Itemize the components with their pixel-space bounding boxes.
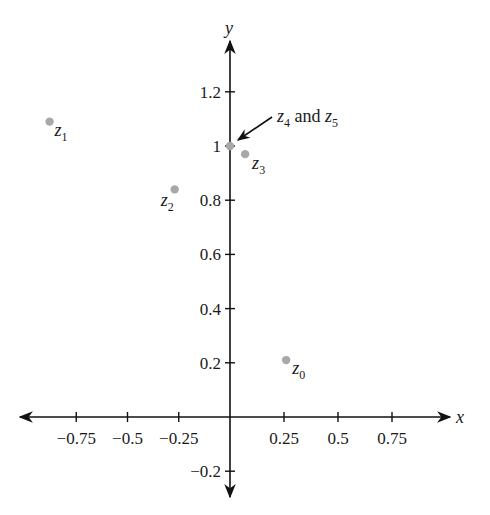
data-points: z0z1z2z3 [45, 117, 305, 382]
x-tick-label: −0.75 [57, 429, 96, 448]
point-z2 [170, 185, 178, 193]
label-z2: z2 [160, 190, 174, 214]
y-tick-label: 1.2 [200, 83, 221, 102]
y-tick-label: 1 [213, 137, 222, 156]
x-tick-label: −0.5 [112, 429, 143, 448]
y-tick-label: −0.2 [190, 462, 221, 481]
point-z0 [282, 356, 290, 364]
annotation-z4-z5: z4 and z5 [276, 106, 338, 130]
label-z0: z0 [291, 358, 305, 382]
x-tick-label: 0.75 [377, 429, 407, 448]
complex-iterates-plot: x y −0.75−0.5−0.250.250.50.75 −0.20.20.4… [0, 0, 490, 515]
annotation-arrow [238, 117, 272, 140]
x-tick-label: −0.25 [159, 429, 198, 448]
point-z1 [45, 117, 53, 125]
x-axis-label: x [455, 407, 464, 427]
label-z1: z1 [54, 120, 68, 144]
y-tick-label: 0.2 [200, 354, 221, 373]
x-tick-label: 0.5 [327, 429, 348, 448]
y-axis-label: y [223, 18, 233, 38]
y-tick-label: 0.8 [200, 191, 221, 210]
label-z3: z3 [251, 153, 265, 177]
point-z4 [226, 142, 234, 150]
y-tick-label: 0.6 [200, 245, 221, 264]
y-tick-label: 0.4 [200, 300, 222, 319]
point-z3 [241, 150, 249, 158]
x-tick-label: 0.25 [269, 429, 299, 448]
